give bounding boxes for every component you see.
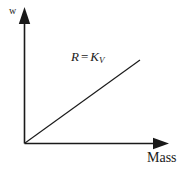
data-line-series-1 [25, 60, 140, 143]
y-axis-label: w [9, 6, 16, 16]
x-axis-label: Mass [147, 151, 177, 165]
y-axis-arrowhead-icon [19, 7, 30, 24]
figure-container: w Mass R=KV [0, 0, 189, 173]
equation-operator: = [79, 49, 90, 64]
equation-left-term: R [71, 49, 79, 64]
x-axis-arrowhead-icon [153, 138, 169, 150]
equation-right-term: K [90, 49, 99, 64]
graph-canvas [0, 0, 189, 173]
equation-annotation: R=KV [71, 50, 104, 65]
equation-right-subscript: V [99, 55, 105, 65]
